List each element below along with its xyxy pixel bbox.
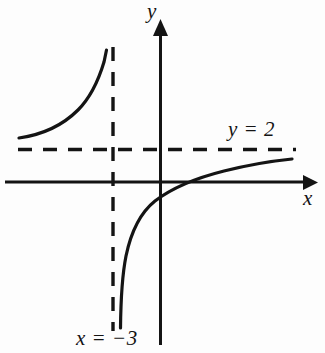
curve-left-branch <box>19 50 107 138</box>
graph-canvas <box>0 0 325 353</box>
curve-right-branch <box>121 159 293 328</box>
x-axis-label: x <box>303 188 312 209</box>
y-axis-label: y <box>147 1 156 22</box>
vertical-asymptote-label: x = −3 <box>76 328 138 349</box>
horizontal-asymptote-label: y = 2 <box>228 119 275 140</box>
graph-figure: y x y = 2 x = −3 <box>0 0 325 353</box>
